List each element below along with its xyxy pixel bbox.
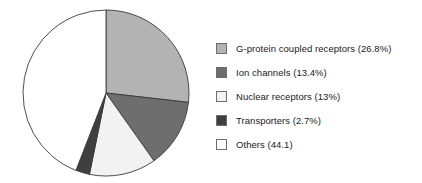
pie-slice-g-protein-coupled-receptors[interactable] [106,10,189,102]
legend-swatch-ion-channels [216,67,227,78]
legend-swatch-g-protein-coupled-receptors [216,43,227,54]
legend-swatch-transporters [216,115,227,126]
chart-legend: G-protein coupled receptors (26.8%) Ion … [214,36,422,156]
pie-chart-figure: G-protein coupled receptors (26.8%) Ion … [0,0,422,183]
legend-label-others: Others (44.1) [236,139,293,150]
legend-swatch-nuclear-receptors [216,91,227,102]
legend-label-g-protein-coupled-receptors: G-protein coupled receptors (26.8%) [236,43,391,54]
legend-label-ion-channels: Ion channels (13.4%) [236,67,327,78]
legend-item-nuclear-receptors[interactable]: Nuclear receptors (13%) [214,84,422,108]
legend-item-others[interactable]: Others (44.1) [214,132,422,156]
legend-item-g-protein-coupled-receptors[interactable]: G-protein coupled receptors (26.8%) [214,36,422,60]
legend-item-ion-channels[interactable]: Ion channels (13.4%) [214,60,422,84]
legend-label-transporters: Transporters (2.7%) [236,115,321,126]
legend-swatch-others [216,139,227,150]
legend-item-transporters[interactable]: Transporters (2.7%) [214,108,422,132]
legend-label-nuclear-receptors: Nuclear receptors (13%) [236,91,340,102]
pie-chart-plot-area [0,0,212,183]
pie-chart-svg [0,0,212,183]
